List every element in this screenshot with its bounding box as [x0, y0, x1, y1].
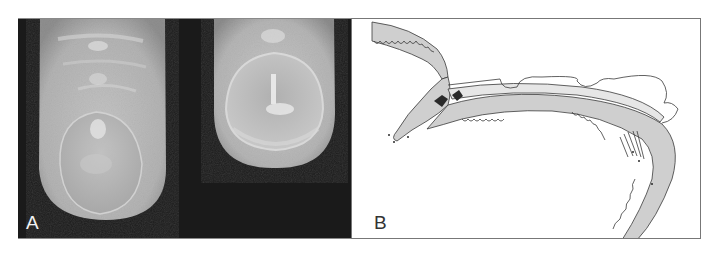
panel-b-label: B [374, 213, 387, 232]
figure: A [18, 18, 701, 239]
left-finger [39, 19, 166, 220]
panel-a-photo: A [18, 18, 351, 239]
right-finger [214, 19, 335, 168]
fingertips-photo [18, 19, 351, 239]
panel-b-drawing: B [351, 18, 701, 239]
nail-bed [427, 94, 675, 239]
proximal-nail-fold [372, 22, 448, 79]
nail-section-drawing [352, 19, 701, 239]
panel-a-label: A [26, 213, 39, 232]
nail-matrix [394, 77, 451, 141]
